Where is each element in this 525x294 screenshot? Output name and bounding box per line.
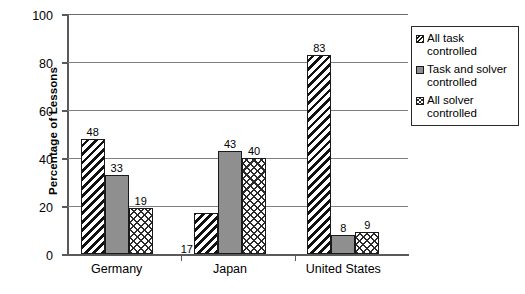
y-tick-mark: 100 (62, 14, 68, 16)
cross-hatch-swatch (416, 97, 424, 105)
y-tick-mark: 80 (62, 62, 68, 64)
gridline (68, 14, 408, 15)
bar: 48 (81, 139, 105, 254)
chart-legend: All task controlledTask and solver contr… (411, 26, 519, 126)
y-tick-mark: 20 (62, 206, 68, 208)
plot-area: 020406080100 4833191743408389 (68, 14, 408, 254)
bar-value-label: 9 (364, 219, 370, 231)
bar-value-label: 33 (111, 162, 123, 174)
gridline (68, 110, 408, 111)
x-axis-spine (67, 254, 409, 256)
bar-value-label: 8 (340, 222, 346, 234)
y-tick-label: 20 (39, 201, 53, 215)
y-tick-label: 80 (39, 57, 53, 71)
y-tick-mark: 40 (62, 158, 68, 160)
bar-value-label: 43 (224, 138, 236, 150)
bar-chart: Percentage of Lessons 020406080100 48331… (0, 0, 525, 294)
legend-item-label: All task controlled (427, 32, 515, 58)
y-axis-spine (67, 14, 69, 255)
bar: 9 (355, 232, 379, 254)
bar-value-label: 19 (135, 195, 147, 207)
y-tick-label: 40 (39, 153, 53, 167)
bar-value-label: 48 (87, 126, 99, 138)
legend-item-label: Task and solver controlled (427, 63, 515, 89)
bar: 33 (105, 175, 129, 254)
bar: 19 (129, 208, 153, 254)
bar: 17 (194, 213, 218, 254)
bar-value-label: 40 (248, 145, 260, 157)
solid-gray-swatch (416, 66, 424, 74)
bar: 83 (307, 55, 331, 254)
bar: 40 (242, 158, 266, 254)
y-tick-mark: 60 (62, 110, 68, 112)
y-tick-mark: 0 (62, 254, 68, 256)
y-tick-label: 60 (39, 105, 53, 119)
legend-item[interactable]: All solver controlled (416, 94, 515, 120)
diagonal-hatch-swatch (416, 35, 424, 43)
x-tick-mark (181, 254, 182, 261)
category-label-germany: Germany (91, 262, 142, 276)
x-tick-mark (295, 254, 296, 261)
category-label-japan: Japan (213, 262, 247, 276)
category-label-united-states: United States (306, 262, 381, 276)
bar-value-label: 17 (181, 243, 193, 255)
bar-value-label: 83 (313, 42, 325, 54)
legend-item-label: All solver controlled (427, 94, 515, 120)
legend-item[interactable]: All task controlled (416, 32, 515, 58)
gridline (68, 62, 408, 63)
y-tick-label: 100 (32, 9, 53, 23)
bar: 8 (331, 235, 355, 254)
legend-item[interactable]: Task and solver controlled (416, 63, 515, 89)
bar: 43 (218, 151, 242, 254)
y-tick-label: 0 (46, 249, 53, 263)
